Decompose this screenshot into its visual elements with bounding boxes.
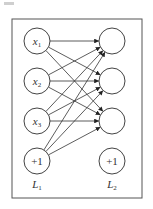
node-h1 [99, 28, 125, 54]
node-x1: x1 [24, 28, 50, 54]
layer-labels-group: L1L2 [31, 178, 117, 192]
neural-network-diagram: x1x2x3+1+1 L1L2 [0, 0, 153, 209]
layer-label-2: L2 [106, 178, 117, 192]
node-x3: x3 [24, 108, 50, 134]
node-circle [99, 28, 125, 54]
node-circle [99, 108, 125, 134]
node-label: +1 [31, 155, 43, 167]
edge-b1-h1 [44, 52, 105, 150]
node-b2: +1 [99, 148, 125, 174]
node-label: +1 [106, 155, 118, 167]
node-x2: x2 [24, 68, 50, 94]
node-h3 [99, 108, 125, 134]
node-circle [99, 68, 125, 94]
node-b1: +1 [24, 148, 50, 174]
layer-label-1: L1 [31, 178, 42, 192]
edges-group [44, 41, 105, 155]
node-h2 [99, 68, 125, 94]
